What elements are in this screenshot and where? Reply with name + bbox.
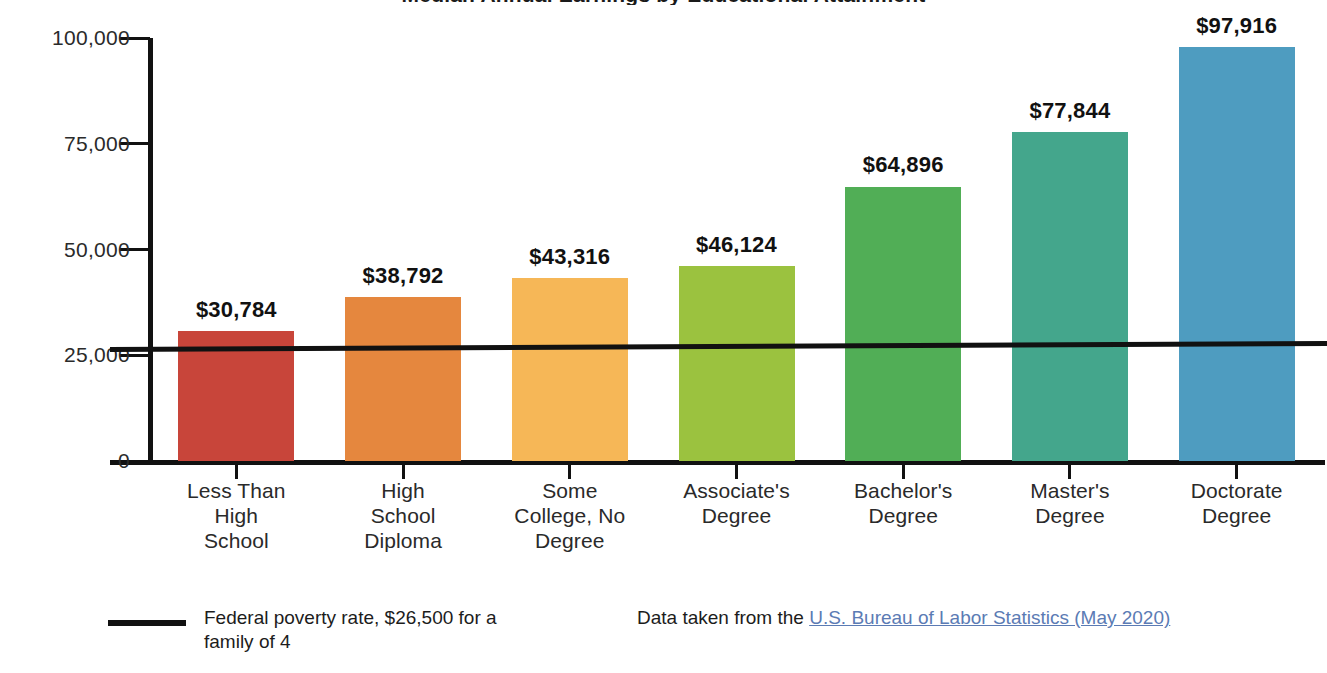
x-axis-tick bbox=[235, 465, 238, 479]
x-axis-category-label: Master's Degree bbox=[982, 478, 1159, 528]
x-axis-tick bbox=[1235, 465, 1238, 479]
bar-series: $30,784$38,792$43,316$46,124$64,896$77,8… bbox=[0, 0, 1327, 461]
bar-value-label: $30,784 bbox=[196, 297, 277, 323]
source-note: Data taken from the U.S. Bureau of Labor… bbox=[637, 606, 1170, 630]
bar[interactable] bbox=[1179, 47, 1295, 461]
x-axis-tick bbox=[568, 465, 571, 479]
legend-line-swatch bbox=[108, 620, 186, 626]
source-note-prefix: Data taken from the bbox=[637, 607, 809, 628]
chart-plot-area: 025,00050,00075,000100,000 $30,784$38,79… bbox=[0, 0, 1327, 600]
x-axis-tick bbox=[1068, 465, 1071, 479]
bar[interactable] bbox=[845, 187, 961, 462]
bar-value-label: $38,792 bbox=[363, 263, 444, 289]
bar[interactable] bbox=[679, 266, 795, 461]
bar[interactable] bbox=[512, 278, 628, 461]
bar-value-label: $46,124 bbox=[696, 232, 777, 258]
x-axis-category-label: High School Diploma bbox=[315, 478, 492, 553]
x-axis-tick bbox=[735, 465, 738, 479]
chart-footer: Federal poverty rate, $26,500 for a fami… bbox=[0, 598, 1327, 673]
bar[interactable] bbox=[1012, 132, 1128, 461]
x-axis-category-label: Doctorate Degree bbox=[1148, 478, 1325, 528]
x-axis-tick bbox=[902, 465, 905, 479]
x-axis-tick bbox=[402, 465, 405, 479]
bar-value-label: $77,844 bbox=[1029, 98, 1110, 124]
x-axis-category-label: Less Than High School bbox=[148, 478, 325, 553]
x-axis-category-label: Associate's Degree bbox=[648, 478, 825, 528]
source-link[interactable]: U.S. Bureau of Labor Statistics (May 202… bbox=[809, 607, 1170, 628]
bar-value-label: $64,896 bbox=[863, 152, 944, 178]
x-axis-category-label: Some College, No Degree bbox=[481, 478, 658, 553]
legend-caption: Federal poverty rate, $26,500 for a fami… bbox=[204, 606, 534, 654]
bar-value-label: $97,916 bbox=[1196, 13, 1277, 39]
bar[interactable] bbox=[345, 297, 461, 461]
bar-value-label: $43,316 bbox=[529, 244, 610, 270]
x-axis-category-label: Bachelor's Degree bbox=[815, 478, 992, 528]
